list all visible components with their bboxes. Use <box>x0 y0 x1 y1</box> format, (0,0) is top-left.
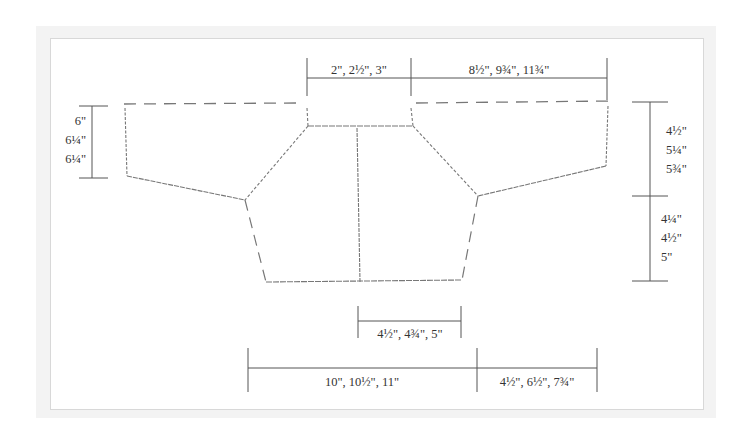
right-lower-height-size-1: 4¼" <box>661 210 682 229</box>
left-sleeve-height-size-3: 6¼" <box>62 150 86 169</box>
bottom-center-measurement: 4½", 4¾", 5" <box>377 328 442 341</box>
top-center-measurement: 2", 2½", 3" <box>331 64 387 77</box>
body-right-side <box>462 196 478 280</box>
bottom-left-measurement: 10", 10½", 11" <box>325 376 399 389</box>
right-lower-height-size-3: 5" <box>661 248 682 267</box>
raglan-right <box>413 126 478 196</box>
left-sleeve-bottom <box>127 176 245 200</box>
right-upper-height-size-1: 4½" <box>666 122 687 141</box>
body-hem <box>266 280 462 282</box>
right-upper-height-size-2: 5¼" <box>666 141 687 160</box>
dimension-lines <box>79 58 668 392</box>
right-upper-height-measurement: 4½" 5¼" 5¾" <box>666 122 687 179</box>
top-edge-right <box>416 101 612 103</box>
right-lower-height-size-2: 4½" <box>661 229 682 248</box>
center-front-line <box>357 128 360 282</box>
neck-right-side <box>411 108 413 126</box>
bottom-right-measurement: 4½", 6½", 7¾" <box>500 376 575 389</box>
right-sleeve-bottom <box>478 166 606 196</box>
top-right-measurement: 8½", 9¾", 11¾" <box>469 64 549 77</box>
left-sleeve-height-size-2: 6¼" <box>62 131 86 150</box>
right-sleeve-side <box>606 106 608 166</box>
right-lower-height-measurement: 4¼" 4½" 5" <box>661 210 682 267</box>
raglan-left <box>245 126 308 200</box>
body-left-side <box>245 200 266 282</box>
right-upper-height-size-3: 5¾" <box>666 160 687 179</box>
top-edge-left <box>124 103 300 104</box>
left-sleeve-height-size-1: 6" <box>62 112 86 131</box>
left-sleeve-height-measurement: 6" 6¼" 6¼" <box>62 112 86 169</box>
left-sleeve-side <box>125 108 127 176</box>
neck-left-side <box>307 108 308 126</box>
garment-outline <box>124 101 612 282</box>
